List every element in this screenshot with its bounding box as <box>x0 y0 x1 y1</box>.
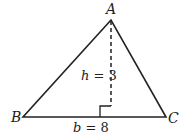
vertex-label-a: A <box>104 1 116 17</box>
height-var: h <box>81 68 89 83</box>
vertex-label-c: C <box>168 110 179 126</box>
right-angle-marker <box>100 106 111 117</box>
height-value: = 3 <box>89 68 116 83</box>
base-value: = 8 <box>81 120 108 135</box>
base-var: b <box>73 120 81 135</box>
base-label: b = 8 <box>73 120 109 135</box>
vertex-label-b: B <box>10 109 21 125</box>
height-label: h = 3 <box>81 68 117 83</box>
triangle-diagram: A B C h = 3 b = 8 <box>0 0 184 140</box>
